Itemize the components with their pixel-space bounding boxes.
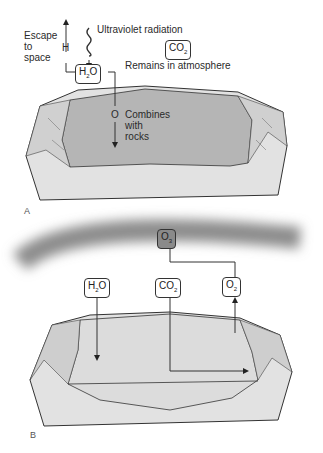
basin-a (26, 86, 287, 200)
combines-line-2: with (125, 120, 170, 131)
o3-box: O3 (157, 229, 176, 249)
h-label: H (62, 42, 69, 53)
co2-sub: 2 (184, 49, 187, 55)
h2o-tail-b: O (99, 280, 107, 291)
remains-label: Remains in atmosphere (125, 60, 231, 71)
escape-line-1: Escape (24, 30, 57, 41)
combines-line-1: Combines (125, 109, 170, 120)
h2o-box-a: H2O (75, 64, 101, 84)
co2-main: CO (169, 42, 184, 53)
combines-line-3: rocks (125, 131, 170, 142)
o2-main: O (226, 279, 234, 290)
combines-label: Combines with rocks (125, 109, 170, 142)
h2o-tail: O (90, 66, 98, 77)
co2-sub-b: 2 (174, 287, 177, 293)
o3-sub: 3 (169, 238, 172, 244)
o2-box: O2 (222, 277, 241, 297)
o3-main: O (161, 231, 169, 242)
panel-letter-a: A (24, 206, 30, 216)
escape-line-2: to (24, 41, 57, 52)
escape-label: Escape to space (24, 30, 57, 63)
co2-box-a: CO2 (165, 40, 191, 60)
uv-label: Ultraviolet radiation (97, 24, 183, 35)
panel-letter-b: B (30, 430, 36, 440)
escape-line-3: space (24, 52, 57, 63)
basin-b (30, 312, 292, 426)
co2-box-b: CO2 (155, 278, 181, 298)
o2-sub: 2 (234, 286, 237, 292)
o-label: O (111, 109, 119, 120)
h2o-box-b: H2O (84, 278, 110, 298)
co2-main-b: CO (159, 280, 174, 291)
